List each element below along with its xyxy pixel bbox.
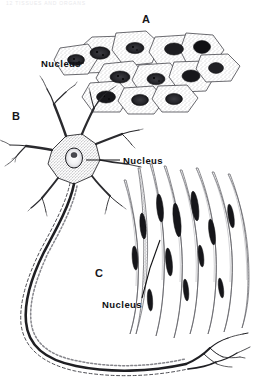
nucleus-label-a: Nucleus bbox=[41, 58, 81, 69]
nucleus-label-c: Nucleus bbox=[102, 299, 142, 310]
tissue-illustration bbox=[0, 0, 255, 389]
panel-letter-a: A bbox=[142, 13, 150, 25]
figure-root: 12 TISSUES AND ORGANS bbox=[0, 0, 255, 389]
leader-line-nucleus-c2 bbox=[150, 240, 160, 268]
panel-letter-c: C bbox=[95, 267, 103, 279]
panel-c-muscle bbox=[124, 164, 249, 338]
axon-terminals bbox=[186, 333, 250, 369]
nucleus-label-b: Nucleus bbox=[123, 155, 163, 166]
neuron-nucleus bbox=[66, 148, 83, 168]
panel-a-epithelium bbox=[54, 31, 240, 114]
panel-letter-b: B bbox=[12, 110, 20, 122]
